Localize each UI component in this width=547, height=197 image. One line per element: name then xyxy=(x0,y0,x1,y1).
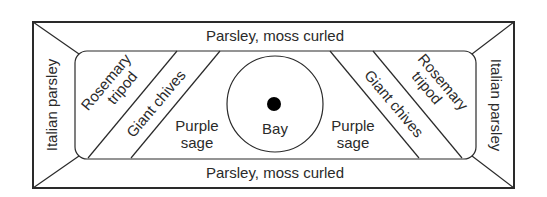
corner-line-br xyxy=(472,156,514,188)
label-bay: Bay xyxy=(262,120,288,137)
corner-line-bl xyxy=(33,156,79,188)
label-left-purple: Purple xyxy=(175,117,218,134)
garden-plan-diagram: Parsley, moss curled Parsley, moss curle… xyxy=(0,0,547,197)
label-bottom-parsley: Parsley, moss curled xyxy=(206,164,344,181)
label-left-italian-parsley: Italian parsley xyxy=(43,58,60,151)
bay-dot xyxy=(267,97,281,111)
label-right-purple: Purple xyxy=(331,117,374,134)
corner-line-tl xyxy=(33,22,79,54)
corner-line-tr xyxy=(472,22,514,54)
label-right-italian-parsley: Italian parsley xyxy=(488,59,505,152)
label-right-sage: sage xyxy=(337,134,370,151)
label-left-sage: sage xyxy=(181,134,214,151)
label-top-parsley: Parsley, moss curled xyxy=(206,27,344,44)
